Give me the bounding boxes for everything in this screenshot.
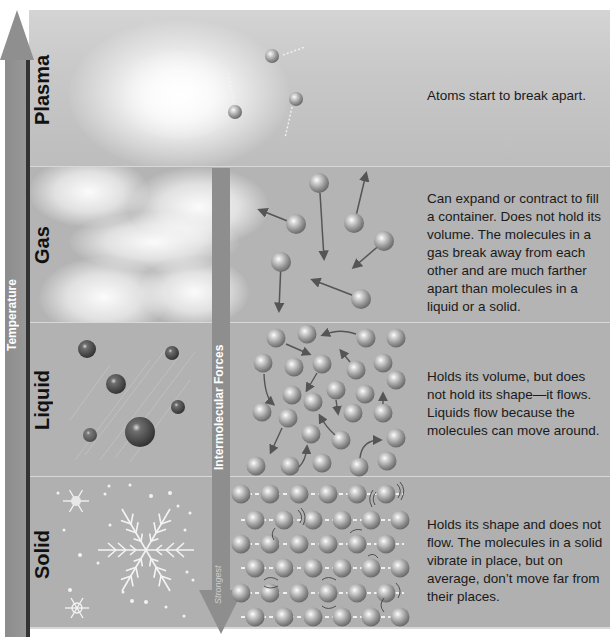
- description-gas: Can expand or contract to fill a contain…: [427, 190, 607, 316]
- solid-molecules: [232, 485, 410, 627]
- plasma-atoms: [228, 47, 305, 138]
- description-liquid: Holds its volume, but does not hold its …: [427, 368, 607, 440]
- description-solid: Holds its shape and does not flow. The m…: [427, 516, 607, 606]
- description-plasma: Atoms start to break apart.: [427, 87, 607, 105]
- gas-molecules: [271, 173, 394, 309]
